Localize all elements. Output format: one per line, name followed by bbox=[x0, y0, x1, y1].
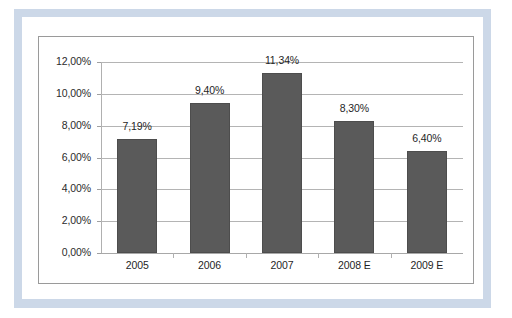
bar[interactable] bbox=[117, 139, 157, 253]
y-axis-tick bbox=[97, 221, 101, 222]
bar[interactable] bbox=[407, 151, 447, 253]
bar-value-label: 11,34% bbox=[242, 54, 322, 66]
bar[interactable] bbox=[190, 103, 230, 253]
bar[interactable] bbox=[334, 121, 374, 253]
y-axis-tick bbox=[97, 94, 101, 95]
x-axis-tick bbox=[318, 253, 319, 258]
y-axis-tick bbox=[97, 189, 101, 190]
bar-value-label: 9,40% bbox=[170, 84, 250, 96]
y-axis-tick-label: 8,00% bbox=[62, 119, 91, 131]
bar-value-label: 6,40% bbox=[387, 132, 467, 144]
x-axis-category-label: 2009 E bbox=[387, 259, 467, 271]
y-axis-tick bbox=[97, 62, 101, 63]
bar-value-label: 8,30% bbox=[314, 102, 394, 114]
x-axis-category-label: 2005 bbox=[97, 259, 177, 271]
y-axis-tick-label: 0,00% bbox=[62, 246, 91, 258]
y-axis-tick bbox=[97, 158, 101, 159]
x-axis-category-label: 2006 bbox=[170, 259, 250, 271]
y-axis-tick-label: 6,00% bbox=[62, 151, 91, 163]
chart-frame: 0,00%2,00%4,00%6,00%8,00%10,00%12,00%7,1… bbox=[38, 36, 474, 284]
x-axis-tick bbox=[391, 253, 392, 258]
y-axis-tick-label: 12,00% bbox=[56, 55, 91, 67]
x-axis-category-label: 2007 bbox=[242, 259, 322, 271]
x-axis-tick bbox=[246, 253, 247, 258]
x-axis-tick bbox=[173, 253, 174, 258]
chart-page: 0,00%2,00%4,00%6,00%8,00%10,00%12,00%7,1… bbox=[0, 0, 512, 318]
y-axis-tick bbox=[97, 253, 101, 254]
y-axis-tick-label: 2,00% bbox=[62, 214, 91, 226]
bar[interactable] bbox=[262, 73, 302, 253]
bar-value-label: 7,19% bbox=[97, 120, 177, 132]
y-axis-tick-label: 10,00% bbox=[56, 87, 91, 99]
y-axis-tick-label: 4,00% bbox=[62, 182, 91, 194]
gridline bbox=[101, 253, 463, 254]
x-axis-category-label: 2008 E bbox=[314, 259, 394, 271]
